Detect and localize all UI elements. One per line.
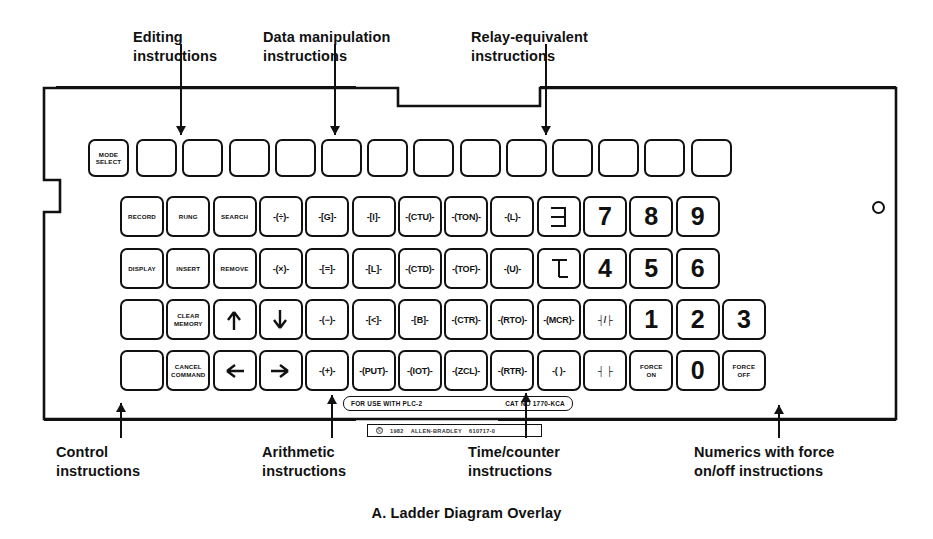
key-ctr[interactable]: -(CTR)-	[444, 299, 488, 340]
key-input[interactable]: -[I]-	[352, 196, 396, 237]
leader-line-data-manipulation	[334, 44, 336, 135]
key-rung[interactable]: RUNG	[166, 196, 210, 237]
key-search[interactable]: SEARCH	[213, 196, 257, 237]
key-cancel-command[interactable]: CANCEL COMMAND	[166, 350, 210, 391]
key-digit-6[interactable]: 6	[676, 248, 720, 289]
key-blank-7[interactable]	[413, 139, 454, 177]
key-blank-12[interactable]	[644, 139, 685, 177]
key-blank-10[interactable]	[552, 139, 593, 177]
key-label: 4	[598, 256, 612, 281]
key-digit-1[interactable]: 1	[629, 299, 673, 340]
key-force-off[interactable]: FORCE OFF	[722, 350, 766, 391]
copyright-strip: © 1982 ALLEN-BRADLEY 610717-0	[367, 424, 542, 437]
key-put[interactable]: -(PUT)-	[352, 350, 396, 391]
key-blank-2[interactable]	[182, 139, 223, 177]
key-blank-14[interactable]	[120, 299, 164, 340]
key-iot[interactable]: -(IOT)-	[398, 350, 442, 391]
key-blank-9[interactable]	[506, 139, 547, 177]
key-clear-memory[interactable]: CLEAR MEMORY	[166, 299, 210, 340]
key-contact-no[interactable]: ┤ ├	[583, 350, 627, 391]
key-label: -(L)-	[504, 212, 521, 222]
key-remove[interactable]: REMOVE	[213, 248, 257, 289]
key-display[interactable]: DISPLAY	[120, 248, 164, 289]
key-ton[interactable]: -(TON)-	[444, 196, 488, 237]
key-blank-6[interactable]	[367, 139, 408, 177]
key-blank-5[interactable]	[321, 139, 362, 177]
key-digit-9[interactable]: 9	[676, 196, 720, 237]
key-label: CLEAR MEMORY	[174, 312, 203, 326]
key-contact-nc[interactable]: ┤/├	[583, 299, 627, 340]
key-record[interactable]: RECORD	[120, 196, 164, 237]
bracket-bottom-left	[44, 419, 356, 421]
key-label: 9	[691, 204, 705, 229]
key-limit[interactable]: -[L]-	[352, 248, 396, 289]
key-blank-1[interactable]	[136, 139, 177, 177]
bracket-top-editing	[56, 86, 356, 88]
key-unlatch[interactable]: -(U)-	[490, 248, 534, 289]
key-ctd[interactable]: -(CTD)-	[398, 248, 442, 289]
mounting-hole-icon	[872, 201, 885, 214]
key-digit-7[interactable]: 7	[583, 196, 627, 237]
key-label: 6	[691, 256, 705, 281]
key-divide[interactable]: -(÷)-	[259, 196, 303, 237]
key-branch-start[interactable]	[537, 196, 581, 237]
key-label: -(RTR)-	[498, 366, 527, 376]
key-less-than[interactable]: -[<]-	[352, 299, 396, 340]
key-branch-end[interactable]	[537, 248, 581, 289]
key-label: -(CTR)-	[452, 315, 481, 325]
key-digit-2[interactable]: 2	[676, 299, 720, 340]
key-mcr[interactable]: -(MCR)-	[537, 299, 581, 340]
arrow-left-icon	[223, 359, 247, 383]
key-force-on[interactable]: FORCE ON	[629, 350, 673, 391]
key-label: -(+)-	[319, 366, 335, 376]
key-blank-8[interactable]	[460, 139, 501, 177]
arrowhead-control-icon	[116, 403, 126, 412]
key-arrow-up[interactable]	[213, 299, 257, 340]
key-latch[interactable]: -(L)-	[490, 196, 534, 237]
key-mode-select[interactable]: MODE SELECT	[88, 139, 129, 177]
key-blank-13[interactable]	[691, 139, 732, 177]
branch-start-icon	[548, 205, 570, 229]
key-label: -[I]-	[367, 212, 381, 222]
key-digit-8[interactable]: 8	[629, 196, 673, 237]
key-ctu[interactable]: -(CTU)-	[398, 196, 442, 237]
branch-end-icon	[548, 257, 570, 281]
key-insert[interactable]: INSERT	[166, 248, 210, 289]
key-digit-5[interactable]: 5	[629, 248, 673, 289]
key-arrow-left[interactable]	[213, 350, 257, 391]
arrowhead-data-manipulation-icon	[330, 126, 340, 135]
key-arrow-right[interactable]	[259, 350, 303, 391]
callout-control: Control instructions	[56, 443, 140, 481]
key-arrow-down[interactable]	[259, 299, 303, 340]
brand-name: ALLEN-BRADLEY	[411, 428, 462, 434]
callout-numerics-force: Numerics with force on/off instructions	[694, 443, 835, 481]
key-zcl[interactable]: -(ZCL)-	[444, 350, 488, 391]
key-add[interactable]: -(+)-	[305, 350, 349, 391]
key-equal[interactable]: -[=]-	[305, 248, 349, 289]
key-subtract[interactable]: -(−)-	[305, 299, 349, 340]
key-blank-11[interactable]	[598, 139, 639, 177]
key-blank-4[interactable]	[275, 139, 316, 177]
key-blank-3[interactable]	[229, 139, 270, 177]
key-digit-0[interactable]: 0	[676, 350, 720, 391]
key-get[interactable]: -[G]-	[305, 196, 349, 237]
key-label: RUNG	[179, 213, 198, 220]
arrowhead-time-counter-icon	[521, 393, 531, 402]
key-rto[interactable]: -(RTO)-	[490, 299, 534, 340]
key-label: 3	[737, 307, 751, 332]
key-blank-15[interactable]	[120, 350, 164, 391]
key-digit-3[interactable]: 3	[722, 299, 766, 340]
key-label: ┤ ├	[598, 366, 613, 376]
key-bit[interactable]: -[B]-	[398, 299, 442, 340]
key-multiply[interactable]: -(×)-	[259, 248, 303, 289]
key-rtr[interactable]: -(RTR)-	[490, 350, 534, 391]
key-tof[interactable]: -(TOF)-	[444, 248, 488, 289]
figure-caption: A. Ladder Diagram Overlay	[0, 505, 933, 521]
callout-relay-equivalent: Relay-equivalent instructions	[471, 28, 588, 66]
key-label: 0	[691, 358, 705, 383]
key-label: DISPLAY	[128, 265, 156, 272]
leader-line-relay-equivalent	[545, 44, 547, 135]
key-digit-4[interactable]: 4	[583, 248, 627, 289]
arrow-right-icon	[269, 359, 293, 383]
key-output-coil[interactable]: -( )-	[537, 350, 581, 391]
